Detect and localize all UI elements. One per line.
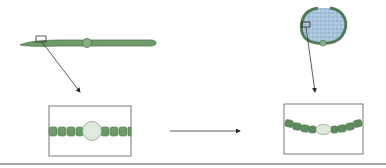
heterocyst-large — [83, 122, 102, 141]
heterocyst-oval — [316, 125, 331, 135]
left-inset — [49, 106, 131, 156]
right-inset — [284, 104, 363, 154]
arrow-left-down — [42, 42, 80, 92]
heterocyst-small — [83, 39, 92, 48]
diagram-canvas — [0, 0, 386, 168]
left-filament — [20, 36, 156, 48]
